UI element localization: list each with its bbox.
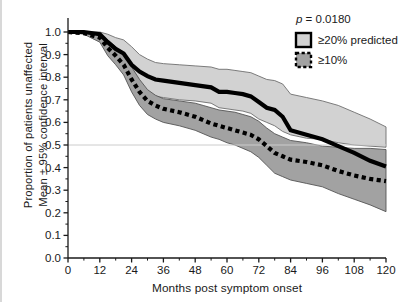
legend-swatch-1 <box>296 53 311 67</box>
x-tick-label: 84 <box>284 264 297 276</box>
x-tick-label: 36 <box>157 264 170 276</box>
x-tick-label: 60 <box>221 264 234 276</box>
x-tick-label: 24 <box>125 264 138 276</box>
x-tick-label: 48 <box>189 264 202 276</box>
x-tick-label: 120 <box>376 264 395 276</box>
x-tick-label: 12 <box>93 264 106 276</box>
x-axis-title: Months post symptom onset <box>68 281 386 295</box>
figure-container: 0.00.10.20.30.40.50.60.70.80.91.00122436… <box>0 0 417 302</box>
legend: p = 0.0180≥20% predicted≥10% <box>295 13 398 67</box>
x-tick-label: 0 <box>65 264 71 276</box>
x-tick-label: 72 <box>252 264 265 276</box>
y-axis-title: Proportion of patients unaffected Mean ±… <box>21 10 51 240</box>
legend-label-0: ≥20% predicted <box>318 34 398 46</box>
legend-label-1: ≥10% <box>318 54 347 66</box>
x-tick-label: 108 <box>345 264 364 276</box>
y-tick-label: 0.0 <box>45 252 61 264</box>
x-tick-label: 96 <box>316 264 329 276</box>
y-axis-title-line1: Proportion of patients unaffected <box>21 10 36 240</box>
survival-plot: 0.00.10.20.30.40.50.60.70.80.91.00122436… <box>0 0 417 302</box>
y-axis-title-line2: Mean ± 95% confidence interval <box>36 10 51 240</box>
p-value-annotation: p = 0.0180 <box>295 13 351 25</box>
legend-swatch-0 <box>296 33 311 47</box>
